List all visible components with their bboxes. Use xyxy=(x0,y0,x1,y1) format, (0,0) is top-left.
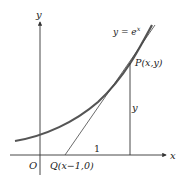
exp-curve xyxy=(15,25,152,141)
point-q-label: Q(x−1,0) xyxy=(50,160,94,171)
vertical-segment-label: y xyxy=(131,102,138,113)
tangent-line xyxy=(65,25,155,155)
exp-tangent-diagram: y x O y = ex P(x,y) Q(x−1,0) y 1 xyxy=(0,0,187,183)
x-axis-label: x xyxy=(170,150,176,161)
base-length-label: 1 xyxy=(94,143,100,154)
point-p-label: P(x,y) xyxy=(134,57,163,68)
y-axis-label: y xyxy=(35,9,42,20)
origin-label: O xyxy=(29,160,37,171)
curve-label: y = ex xyxy=(112,25,141,37)
